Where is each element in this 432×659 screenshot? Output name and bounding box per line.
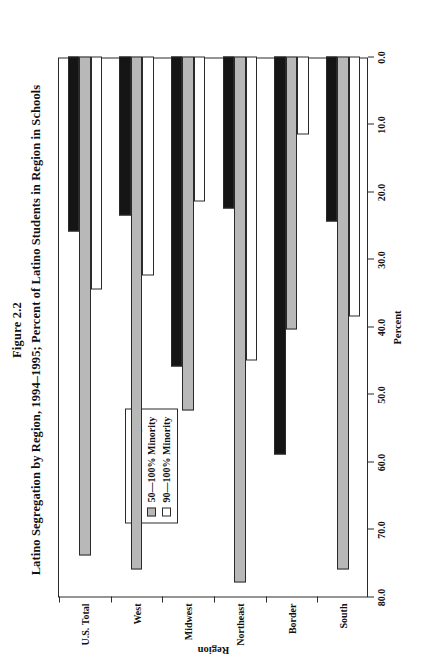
bar-u-s-total-series-2 — [91, 56, 103, 289]
figure-title-block: Figure 2.2 Latino Segregation by Region,… — [10, 0, 44, 659]
page-title: Latino Segregation by Region, 1994–1995;… — [29, 0, 44, 659]
value-axis-title: Percent — [392, 57, 403, 597]
bar-midwest-series-1 — [182, 56, 194, 410]
figure-container: Figure 2.2 Latino Segregation by Region,… — [0, 0, 432, 659]
legend-swatch-white-icon — [162, 507, 171, 516]
value-axis-tick — [368, 124, 374, 125]
category-axis-tick — [317, 596, 318, 602]
legend-item-label: 50—100% Minority — [146, 416, 157, 502]
bar-south-series-1 — [337, 56, 349, 569]
category-axis-tick — [214, 596, 215, 602]
legend-swatch-gray-icon — [147, 507, 156, 516]
category-axis-label: Border — [286, 603, 297, 634]
value-axis-tick-label: 0.0 — [376, 51, 387, 64]
figure-number: Figure 2.2 — [10, 0, 25, 659]
category-axis-tick — [111, 596, 112, 602]
bar-midwest-series-2 — [194, 56, 206, 201]
category-axis-tick — [59, 596, 60, 602]
value-axis-tick-label: 80.0 — [376, 588, 387, 606]
rotated-figure-canvas: Figure 2.2 Latino Segregation by Region,… — [0, 0, 432, 659]
bar-west-series-0 — [119, 56, 131, 215]
bar-border-series-2 — [297, 56, 309, 134]
bar-west-series-2 — [142, 56, 154, 275]
legend-item-label: 90—100% Minority — [161, 416, 172, 502]
bar-northeast-series-2 — [246, 56, 258, 360]
category-axis-tick — [162, 596, 163, 602]
legend-item: 50—100% Minority — [146, 416, 157, 516]
category-axis-title-text: Region — [197, 645, 229, 656]
value-axis-tick — [368, 394, 374, 395]
value-axis-tick — [368, 461, 374, 462]
category-axis-label: South — [338, 603, 349, 628]
value-axis-tick-label: 30.0 — [376, 251, 387, 269]
category-axis-label: Northeast — [234, 603, 245, 645]
bar-west-series-1 — [131, 56, 143, 569]
category-axis-title: Region — [58, 643, 368, 657]
category-axis-label: Midwest — [183, 603, 194, 640]
value-axis-tick-label: 70.0 — [376, 521, 387, 539]
bar-northeast-series-1 — [234, 56, 246, 583]
bar-border-series-0 — [274, 56, 286, 454]
bar-midwest-series-0 — [171, 56, 183, 367]
value-axis-tick — [368, 56, 374, 57]
category-axis-label: West — [131, 603, 142, 624]
bar-u-s-total-series-0 — [68, 56, 80, 232]
bar-u-s-total-series-1 — [79, 56, 91, 556]
value-axis-tick-label: 20.0 — [376, 183, 387, 201]
value-axis-tick-label: 40.0 — [376, 318, 387, 336]
bar-south-series-2 — [349, 56, 361, 316]
value-axis-tick — [368, 259, 374, 260]
value-axis-tick — [368, 326, 374, 327]
value-axis-tick-label: 50.0 — [376, 386, 387, 404]
bar-south-series-0 — [326, 56, 338, 221]
value-axis-tick — [368, 191, 374, 192]
bar-border-series-1 — [286, 56, 298, 329]
bar-northeast-series-0 — [223, 56, 235, 208]
legend-item: 90—100% Minority — [161, 416, 172, 516]
value-axis-tick — [368, 529, 374, 530]
category-axis-tick — [266, 596, 267, 602]
value-axis-tick-label: 60.0 — [376, 453, 387, 471]
value-axis-tick-label: 10.0 — [376, 116, 387, 134]
category-axis-label: U.S. Total — [79, 603, 90, 645]
value-axis-tick — [368, 596, 374, 597]
plot-area: 0—50% Minority50—100% Minority90—100% Mi… — [58, 57, 368, 597]
